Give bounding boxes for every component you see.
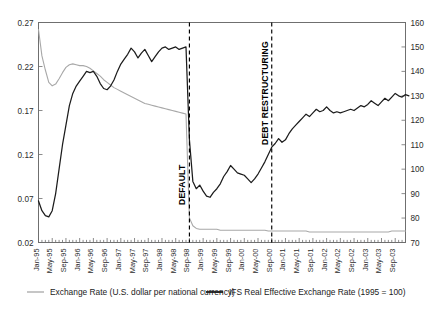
- y-left-tick-label: 0.17: [18, 107, 34, 116]
- x-tick-label: Jan-01: [278, 249, 287, 272]
- x-tick-label: Jan-03: [361, 249, 370, 272]
- y-axis-right-ticks: 708090100110120130140150160: [402, 19, 425, 248]
- y-left-tick-label: 0.12: [18, 151, 34, 160]
- y-right-tick-label: 100: [411, 165, 425, 174]
- x-axis-labels: Jan-95May-95Sep-95Jan-96May-96Sep-96Jan-…: [32, 248, 398, 273]
- x-tick-label: Jan-97: [114, 249, 123, 272]
- y-right-tick-label: 80: [411, 214, 421, 223]
- x-tick-label: Sep-95: [59, 249, 68, 273]
- x-tick-label: Sep-98: [182, 249, 191, 273]
- y-right-tick-label: 150: [411, 43, 425, 52]
- y-right-tick-label: 70: [411, 239, 421, 248]
- x-tick-label: May-99: [210, 249, 219, 274]
- x-tick-label: Sep-96: [100, 249, 109, 273]
- x-tick-label: Jan-96: [73, 249, 82, 272]
- x-tick-label: May-03: [374, 249, 383, 274]
- y-right-tick-label: 120: [411, 116, 425, 125]
- x-tick-label: Sep-97: [141, 249, 150, 273]
- y-left-tick-label: 0.27: [18, 19, 34, 28]
- annotation-label-default: DEFAULT: [177, 164, 187, 205]
- chart-figure: 0.020.070.120.170.220.27 708090100110120…: [0, 0, 448, 309]
- y-left-tick-label: 0.02: [18, 239, 34, 248]
- x-tick-label: Jan-95: [32, 249, 41, 272]
- series-ifs-reer: [39, 47, 409, 217]
- x-tick-label: May-97: [128, 249, 137, 274]
- x-tick-label: Jan-99: [196, 249, 205, 272]
- x-tick-label: May-02: [333, 249, 342, 274]
- x-tick-label: May-98: [169, 249, 178, 274]
- y-left-tick-label: 0.07: [18, 195, 34, 204]
- x-tick-label: Sep-03: [388, 249, 397, 273]
- plot-area-border: [39, 23, 406, 243]
- x-tick-label: May-95: [45, 249, 54, 274]
- x-tick-label: Jan-00: [237, 248, 246, 271]
- y-right-tick-label: 140: [411, 67, 425, 76]
- series-exchange-rate: [39, 30, 406, 232]
- x-tick-label: May-96: [86, 249, 95, 274]
- y-right-tick-label: 130: [411, 92, 425, 101]
- y-right-tick-label: 110: [411, 141, 424, 150]
- x-tick-label: Sep-02: [347, 249, 356, 273]
- event-annotations: DEFAULTDEBT RESTRUCTURING: [177, 23, 271, 243]
- series-lines: [39, 30, 409, 232]
- chart-legend: Exchange Rate (U.S. dollar per national …: [27, 287, 406, 297]
- y-right-tick-label: 90: [411, 190, 421, 199]
- y-right-tick-label: 160: [411, 19, 425, 28]
- legend-label-ifs-reer: IFS Real Effective Exchange Rate (1995 =…: [229, 287, 406, 297]
- x-tick-label: May-01: [292, 249, 301, 274]
- chart-canvas: 0.020.070.120.170.220.27 708090100110120…: [0, 0, 448, 309]
- x-tick-label: Sep-00: [265, 249, 274, 273]
- x-tick-label: Sep-99: [224, 249, 233, 273]
- x-tick-label: Jan-98: [155, 249, 164, 272]
- x-tick-label: Jan-02: [320, 249, 329, 272]
- x-tick-label: May-00: [251, 249, 260, 274]
- plot-frame: [39, 23, 406, 243]
- annotation-label-debt-restructuring: DEBT RESTRUCTURING: [260, 41, 270, 145]
- x-axis-ticks: [39, 238, 406, 243]
- x-tick-label: Sep-01: [306, 249, 315, 273]
- y-left-tick-label: 0.22: [18, 63, 34, 72]
